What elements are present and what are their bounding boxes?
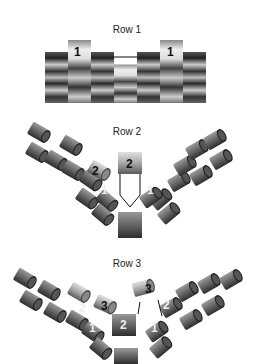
- row1-label-1: 1: [167, 45, 174, 59]
- row3-label-3: 2: [163, 298, 170, 312]
- row2-label-0: 2: [126, 157, 133, 171]
- row2-label-3: 1: [147, 183, 154, 197]
- row3-beads: [13, 267, 245, 364]
- row2-beads: [25, 121, 235, 238]
- row3-label-5: 1: [89, 321, 96, 335]
- row3-label-6: 1: [151, 321, 158, 335]
- row1-label-0: 1: [74, 45, 81, 59]
- row3-label-0: 3: [145, 282, 152, 296]
- row3-labels: 3 3 2 2 2 1 1: [79, 282, 170, 335]
- peyote-stitch-diagram: 1 1 2 2 1 1 3 3 2 2 2 1 1: [0, 0, 254, 364]
- row3-label-4: 2: [120, 318, 127, 332]
- row3-label-1: 3: [101, 299, 108, 313]
- row3-label-2: 2: [79, 301, 86, 315]
- row2-label-2: 1: [101, 183, 108, 197]
- row2-label-1: 2: [92, 164, 99, 178]
- row1-beads: [45, 40, 206, 103]
